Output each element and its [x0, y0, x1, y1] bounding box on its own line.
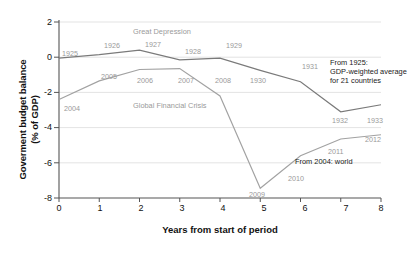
- annotation-from-1925-line2: GDP-weighted average: [330, 67, 407, 76]
- point-label-1925: 1925: [62, 49, 78, 58]
- point-label-1928: 1928: [185, 47, 201, 56]
- point-label-2006: 2006: [137, 76, 153, 85]
- y-axis-ticks: [54, 22, 59, 198]
- annotation-from-1925-line1: From 1925:: [330, 58, 368, 67]
- point-label-1930: 1930: [250, 76, 266, 85]
- point-label-1932: 1932: [332, 116, 348, 125]
- point-label-1927: 1927: [145, 40, 161, 49]
- point-label-2009: 2009: [249, 190, 265, 199]
- point-label-2011: 2011: [328, 147, 343, 156]
- point-label-2012: 2012: [365, 135, 381, 144]
- x-axis-ticks: [59, 198, 381, 202]
- annotation-great-depression: Great Depression: [133, 27, 191, 36]
- annotation-from-1925: From 1925: GDP-weighted average for 21 c…: [330, 58, 407, 86]
- point-label-1933: 1933: [367, 116, 383, 125]
- point-label-1931: 1931: [302, 62, 318, 71]
- annotation-from-1925-line3: for 21 countries: [330, 76, 381, 85]
- point-label-2004: 2004: [64, 104, 80, 113]
- point-label-2008: 2008: [215, 76, 231, 85]
- point-label-2007: 2007: [178, 76, 194, 85]
- point-label-1926: 1926: [104, 41, 120, 50]
- point-label-1929: 1929: [226, 41, 242, 50]
- point-label-2005: 2005: [101, 72, 117, 81]
- series-line-2004: [59, 69, 381, 189]
- annotation-global-financial-crisis: Global Financial Crisis: [133, 101, 207, 110]
- point-label-2010: 2010: [288, 174, 304, 183]
- annotation-from-2004: From 2004: world: [295, 157, 353, 166]
